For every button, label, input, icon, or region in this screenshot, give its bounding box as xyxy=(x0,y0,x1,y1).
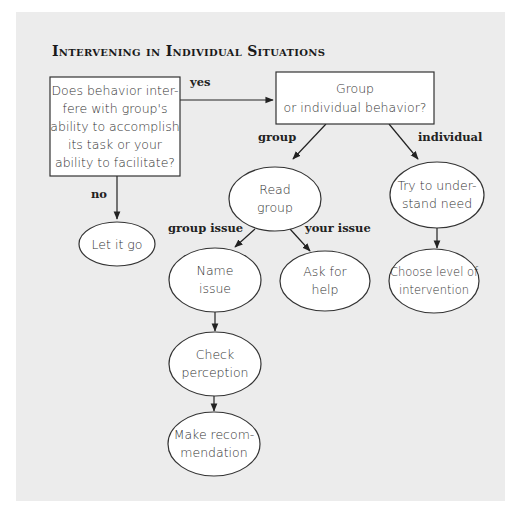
label-yes: yes xyxy=(189,75,210,89)
edge-group xyxy=(293,124,326,159)
node-question-line: Does behavior inter- xyxy=(51,83,178,98)
node-read-group: Read group xyxy=(229,167,321,231)
node-group-or-individual: Group or individual behavior? xyxy=(276,72,434,124)
node-question-line: its task or your xyxy=(68,137,163,152)
label-no: no xyxy=(91,187,107,201)
node-make-recommendation-line: mendation xyxy=(180,445,247,460)
node-make-recommendation: Make recom- mendation xyxy=(168,412,260,476)
node-ask-for-help-line: Ask for xyxy=(303,264,347,279)
node-group-or-individual-line: Group xyxy=(336,81,374,96)
node-make-recommendation-line: Make recom- xyxy=(174,427,255,442)
flowchart: yes no group individual group issue your… xyxy=(0,0,529,520)
label-group-issue: group issue xyxy=(168,221,243,235)
node-choose-level-line: intervention xyxy=(399,283,469,297)
node-name-issue-line: issue xyxy=(199,281,231,296)
node-choose-level: Choose level of intervention xyxy=(389,249,479,313)
node-ask-for-help-line: help xyxy=(311,282,338,297)
node-question: Does behavior inter- fere with group's a… xyxy=(50,77,180,176)
node-try-to-understand: Try to under- stand need xyxy=(390,162,484,228)
node-check-perception-line: perception xyxy=(182,365,249,380)
node-check-perception: Check perception xyxy=(169,332,261,396)
node-check-perception-line: Check xyxy=(196,347,234,362)
node-question-line: fere with group's xyxy=(63,101,168,116)
node-name-issue-line: Name xyxy=(197,263,234,278)
node-let-it-go: Let it go xyxy=(79,222,155,266)
node-ask-for-help: Ask for help xyxy=(280,251,370,311)
label-your-issue: your issue xyxy=(304,221,371,235)
node-name-issue: Name issue xyxy=(169,248,261,312)
label-individual: individual xyxy=(418,130,483,144)
node-read-group-line: group xyxy=(257,200,293,215)
label-group: group xyxy=(258,130,296,144)
node-try-to-understand-line: Try to under- xyxy=(397,178,476,193)
edge-individual xyxy=(389,124,418,159)
node-question-line: ability to accomplish xyxy=(50,119,179,134)
node-question-line: ability to facilitate? xyxy=(55,155,175,170)
node-group-or-individual-line: or individual behavior? xyxy=(284,100,427,115)
node-let-it-go-line: Let it go xyxy=(92,237,143,252)
node-read-group-line: Read xyxy=(259,182,290,197)
node-try-to-understand-line: stand need xyxy=(402,196,472,211)
node-choose-level-line: Choose level of xyxy=(390,265,479,279)
